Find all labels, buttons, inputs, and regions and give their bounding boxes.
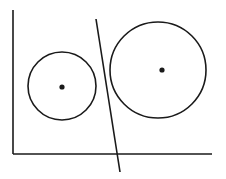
small-circle-center-dot bbox=[59, 84, 64, 89]
diagram-svg bbox=[0, 0, 226, 179]
diagram-canvas bbox=[0, 0, 226, 179]
large-circle bbox=[110, 22, 206, 118]
large-circle-center-dot bbox=[159, 67, 164, 72]
